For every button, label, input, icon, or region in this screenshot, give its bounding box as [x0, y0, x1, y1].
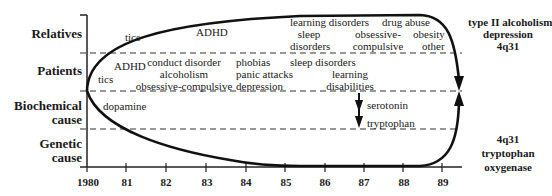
biochem-serotonin: serotonin: [367, 99, 408, 111]
tick-88: 88: [399, 176, 410, 188]
row-label-relatives: Relatives: [2, 27, 82, 41]
relatives-obsessive-compulsive: obsessive-compulsive: [348, 28, 408, 52]
up-arrow-icon: [454, 91, 464, 106]
tick-83: 83: [202, 176, 213, 188]
relatives-tics: tics: [125, 31, 140, 43]
right-note-bottom: 4q31tryptophanoxygenase: [478, 132, 538, 174]
relatives-learning-disorders: learning disorders: [290, 16, 369, 28]
relatives-sleep-disorders: sleepdisorders: [290, 28, 328, 52]
down-arrow-icon: [355, 100, 363, 112]
row-label-genetic-cause: Geneticcause: [2, 137, 82, 165]
row-label-patients: Patients: [2, 64, 82, 78]
tick-85: 85: [281, 176, 292, 188]
patients-group-84: phobiaspanic attacksdepression: [236, 56, 293, 92]
tick-87: 87: [359, 176, 370, 188]
biochem-dopamine: dopamine: [103, 100, 146, 112]
biochem-tryptophan: tryptophan: [367, 117, 415, 129]
tick-89: 89: [438, 176, 449, 188]
tick-82: 82: [161, 176, 172, 188]
tick-1980: 1980: [77, 176, 99, 188]
relatives-adhd: ADHD: [196, 26, 228, 38]
down-arrow-icon: [355, 116, 363, 128]
right-note-top: type II alcoholismdepression4q31: [468, 16, 548, 52]
patients-learning-disabilities: learningdisabilities: [318, 68, 382, 92]
patients-sleep-disorders: sleep disorders: [290, 56, 356, 68]
patients-group-82: conduct disorderalcoholismobsessive-comp…: [134, 56, 234, 92]
tick-81: 81: [122, 176, 133, 188]
tick-84: 84: [241, 176, 252, 188]
tick-86: 86: [320, 176, 331, 188]
relatives-other: other: [422, 40, 445, 52]
patients-tics: tics: [98, 73, 113, 85]
row-label-biochemical-cause: Biochemicalcause: [2, 99, 82, 127]
relatives-drug-abuse: drug abuse: [382, 16, 430, 28]
down-arrow-icon: [454, 76, 464, 91]
relatives-obesity: obesity: [413, 28, 445, 40]
